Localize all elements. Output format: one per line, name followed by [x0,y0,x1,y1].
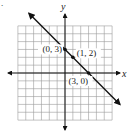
point-label: (3, 0) [69,76,89,86]
axes [8,14,120,130]
problem-marker: . [1,0,3,8]
line-y-equals-neg-x-plus-3 [29,13,120,104]
coordinate-plane-graph: (0, 3)(1, 2)(3, 0) x y . [0,0,131,133]
point-label: (0, 3) [43,44,63,54]
x-axis-label: x [121,68,127,79]
point-label: (1, 2) [77,48,97,58]
point-marker [63,48,67,52]
point-marker [87,71,91,75]
y-axis-label: y [60,1,66,12]
point-marker [71,56,75,60]
line-series [29,13,120,104]
